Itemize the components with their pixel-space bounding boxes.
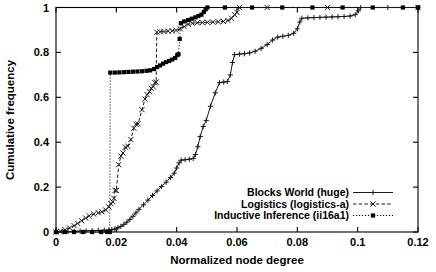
x-tick-label: 0.1 bbox=[350, 236, 365, 248]
chart-legend: Blocks World (huge)Logistics (logistics-… bbox=[214, 186, 393, 221]
y-tick-labels: 00.20.40.60.81 bbox=[34, 2, 50, 239]
cdf-plot: 00.020.040.060.080.10.12 00.20.40.60.81 … bbox=[0, 0, 436, 272]
y-tick-label: 0.6 bbox=[34, 91, 49, 103]
legend-label-0: Blocks World (huge) bbox=[247, 186, 349, 198]
y-tick-label: 0.2 bbox=[34, 181, 49, 193]
y-tick-label: 0.4 bbox=[34, 136, 50, 148]
y-tick-label: 1 bbox=[43, 2, 49, 14]
chart-container: 00.020.040.060.080.10.12 00.20.40.60.81 … bbox=[0, 0, 436, 272]
x-tick-labels: 00.020.040.060.080.10.12 bbox=[53, 236, 429, 248]
y-tick-label: 0 bbox=[43, 226, 49, 238]
series-layer bbox=[53, 5, 420, 235]
x-tick-label: 0.08 bbox=[287, 236, 308, 248]
x-tick-label: 0.12 bbox=[407, 236, 428, 248]
y-tick-label: 0.8 bbox=[34, 46, 49, 58]
x-tick-label: 0.06 bbox=[226, 236, 247, 248]
series-0 bbox=[53, 5, 420, 235]
series-1 bbox=[53, 5, 420, 235]
x-tick-label: 0 bbox=[53, 236, 59, 248]
series-2 bbox=[54, 5, 420, 234]
y-axis-title: Cumulative frequency bbox=[4, 59, 16, 180]
x-tick-label: 0.02 bbox=[106, 236, 127, 248]
legend-label-2: Inductive Inference (ii16a1) bbox=[214, 209, 349, 221]
x-tick-label: 0.04 bbox=[166, 236, 188, 248]
x-axis-title: Normalized node degree bbox=[170, 254, 304, 266]
legend-label-1: Logistics (logistics-a) bbox=[241, 198, 349, 210]
